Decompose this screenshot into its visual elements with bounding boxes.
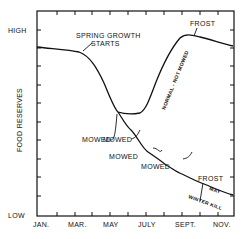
y-tick-low: LOW — [8, 212, 25, 219]
x-tick-sept: SEPT. — [175, 221, 196, 228]
annotation-normal-not-mowed: NORMAL - NOT MOWED — [160, 49, 189, 110]
annotation-mowed-4: MOWED — [141, 163, 170, 170]
x-tick-mar: MAR. — [68, 221, 87, 228]
annotation-mowed-3: MOWED — [109, 153, 138, 160]
annotation-frost-bottom: FROST — [198, 175, 224, 182]
y-axis-title: FOOD RESERVES — [16, 88, 23, 152]
annotation-frost-top: FROST — [190, 20, 216, 27]
annotation-mowed-2: MOWED — [103, 136, 132, 143]
y-tick-high: HIGH — [8, 27, 27, 34]
annotation-spring-growth: SPRING GROWTH — [76, 32, 141, 39]
x-axis-ticks — [57, 212, 218, 216]
normal-not-mowed-curve — [37, 35, 233, 114]
food-reserves-chart: HIGH LOW FOOD RESERVES JAN. MAR. MAY JUL… — [0, 0, 252, 239]
x-tick-nov: NOV. — [213, 221, 231, 228]
annotation-starts: STARTS — [91, 40, 120, 47]
x-tick-july: JULY — [138, 221, 156, 228]
annotation-winter-kill: WINTER KILL — [188, 193, 223, 211]
x-tick-may: MAY — [103, 221, 119, 228]
y-axis-ticks-right — [230, 30, 234, 196]
annotation-may: MAY — [209, 185, 222, 194]
x-tick-jan: JAN. — [33, 221, 49, 228]
